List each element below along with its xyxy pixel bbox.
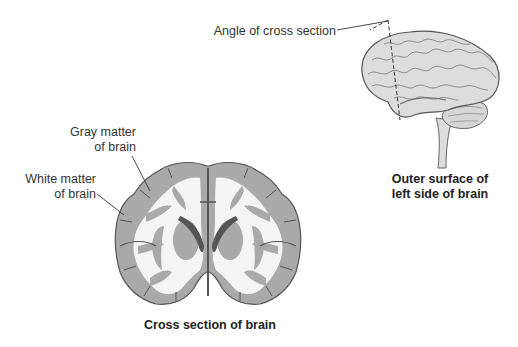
outer-surface-caption: Outer surface of left side of brain <box>372 172 508 202</box>
white-matter-line-1: White matter <box>10 172 96 187</box>
cross-section-caption: Cross section of brain <box>110 318 310 333</box>
cross-section-caption-text: Cross section of brain <box>144 318 276 332</box>
angle-label-text: Angle of cross section <box>214 24 336 38</box>
white-matter-line-2: of brain <box>10 187 96 202</box>
gray-matter-label: Gray matter of brain <box>40 125 136 155</box>
white-matter-label: White matter of brain <box>10 172 96 202</box>
cross-section-illustration <box>115 163 301 305</box>
outer-surface-line-1: Outer surface of <box>372 172 508 187</box>
gray-matter-line-2: of brain <box>40 140 136 155</box>
gray-matter-line-1: Gray matter <box>40 125 136 140</box>
lateral-brain-illustration <box>362 20 499 168</box>
outer-surface-line-2: left side of brain <box>372 187 508 202</box>
angle-of-cross-section-label: Angle of cross section <box>196 24 336 39</box>
